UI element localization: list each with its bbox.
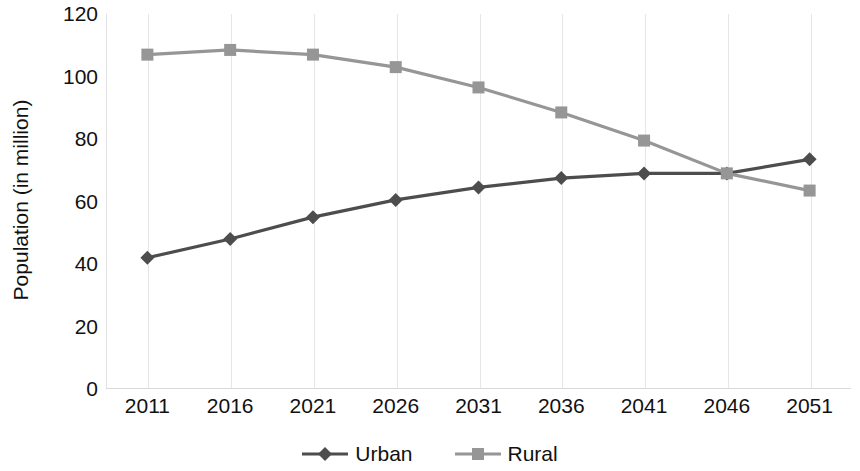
data-point-marker	[473, 81, 485, 93]
y-tick-label: 20	[34, 315, 98, 339]
data-point-marker	[223, 232, 237, 246]
data-point-marker	[472, 180, 486, 194]
data-point-marker	[638, 135, 650, 147]
series-canvas	[106, 14, 851, 389]
legend-item-urban[interactable]: Urban	[302, 442, 412, 466]
data-point-marker	[555, 106, 567, 118]
legend-label: Rural	[508, 442, 558, 466]
y-tick-label: 80	[34, 127, 98, 151]
data-point-marker	[804, 185, 816, 197]
data-point-marker	[389, 193, 403, 207]
x-tick-label: 2021	[290, 394, 337, 418]
legend-label: Urban	[355, 442, 412, 466]
series-line	[147, 159, 809, 257]
plot-area	[106, 14, 851, 389]
y-tick-label: 60	[34, 190, 98, 214]
y-tick-label: 40	[34, 252, 98, 276]
x-tick-label: 2011	[125, 394, 170, 418]
data-point-marker	[554, 171, 568, 185]
data-point-marker	[637, 166, 651, 180]
chart-legend: UrbanRural	[0, 437, 860, 471]
y-tick-label: 120	[34, 2, 98, 26]
legend-marker-diamond-icon	[302, 444, 348, 464]
data-point-marker	[307, 49, 319, 61]
x-tick-label: 2036	[538, 394, 585, 418]
population-projection-line-chart: Population (in million) 020406080100120 …	[0, 0, 860, 471]
x-tick-label: 2016	[207, 394, 254, 418]
y-axis-tick-labels: 020406080100120	[34, 0, 98, 471]
series-line	[147, 50, 809, 191]
data-point-marker	[224, 44, 236, 56]
data-point-marker	[721, 167, 733, 179]
x-axis-tick-labels: 201120162021202620312036204120462051	[106, 394, 851, 428]
x-tick-label: 2046	[703, 394, 750, 418]
y-tick-label: 100	[34, 65, 98, 89]
y-tick-label: 0	[34, 377, 98, 401]
legend-marker-square-icon	[455, 444, 501, 464]
x-tick-label: 2031	[455, 394, 502, 418]
data-point-marker	[306, 210, 320, 224]
y-axis-title-label: Population (in million)	[9, 100, 33, 301]
data-point-marker	[141, 49, 153, 61]
data-point-marker	[390, 61, 402, 73]
x-tick-label: 2041	[621, 394, 668, 418]
data-point-marker	[803, 152, 817, 166]
legend-item-rural[interactable]: Rural	[455, 442, 558, 466]
x-tick-label: 2051	[786, 394, 833, 418]
x-tick-label: 2026	[372, 394, 419, 418]
data-point-marker	[140, 251, 154, 265]
